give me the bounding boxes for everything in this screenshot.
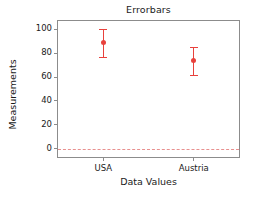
y-tick-label: 40 bbox=[41, 95, 52, 105]
errorbar-upper-cap bbox=[99, 29, 107, 30]
y-axis-label: Measurements bbox=[7, 26, 18, 164]
y-tick-mark bbox=[54, 53, 58, 54]
chart-title: Errorbars bbox=[57, 4, 240, 15]
y-tick-label: 0 bbox=[47, 143, 52, 153]
y-tick-mark bbox=[54, 77, 58, 78]
zero-reference-line bbox=[58, 149, 239, 150]
y-tick-mark bbox=[54, 124, 58, 125]
y-tick-label: 20 bbox=[41, 119, 52, 129]
data-point-marker bbox=[101, 40, 106, 45]
y-tick-mark bbox=[54, 100, 58, 101]
data-point-marker bbox=[191, 58, 196, 63]
errorbar-upper-cap bbox=[190, 47, 198, 48]
x-tick-mark bbox=[193, 157, 194, 161]
plot-area: 020406080100USAAustria bbox=[57, 20, 240, 158]
errorbar-lower-cap bbox=[190, 75, 198, 76]
x-axis-label: Data Values bbox=[57, 176, 240, 187]
y-tick-label: 80 bbox=[41, 47, 52, 57]
y-tick-label: 100 bbox=[36, 23, 52, 33]
x-tick-label: Austria bbox=[179, 163, 209, 173]
x-tick-mark bbox=[103, 157, 104, 161]
y-tick-mark bbox=[54, 29, 58, 30]
y-tick-label: 60 bbox=[41, 71, 52, 81]
plot-inner: 020406080100USAAustria bbox=[58, 21, 239, 157]
errorbar-lower-cap bbox=[99, 57, 107, 58]
errorbar-chart-figure: Errorbars 020406080100USAAustria Data Va… bbox=[0, 0, 256, 199]
x-tick-label: USA bbox=[94, 163, 112, 173]
